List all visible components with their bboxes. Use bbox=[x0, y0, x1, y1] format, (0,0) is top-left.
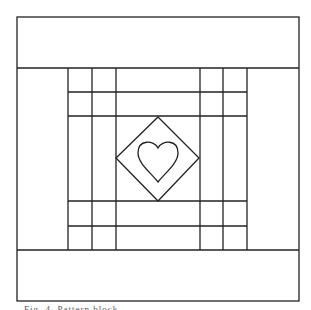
figure-caption: Fig. 4. Pattern block bbox=[24, 304, 118, 310]
heart-icon bbox=[138, 142, 178, 182]
center-diamond bbox=[116, 117, 199, 201]
quilt-block-diagram bbox=[0, 0, 311, 310]
outer-border bbox=[17, 17, 299, 301]
